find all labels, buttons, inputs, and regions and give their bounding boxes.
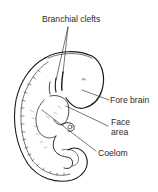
fore-brain-leader xyxy=(82,90,109,100)
label-fore-brain: Fore brain xyxy=(110,95,149,105)
heart-bulge xyxy=(36,100,56,138)
head-contour xyxy=(45,52,104,109)
embryo-diagram: Branchial clefts Fore brain Face area Co… xyxy=(0,0,158,192)
limb-bud-ring xyxy=(68,125,72,129)
tail-inner xyxy=(62,149,79,166)
somite-ticks xyxy=(21,70,64,175)
optic-mark xyxy=(82,79,85,81)
face-area-leader xyxy=(66,106,108,126)
label-branchial-clefts: Branchial clefts xyxy=(42,14,100,24)
label-face-area-line2: area xyxy=(111,127,128,137)
embryo-back-contour xyxy=(15,58,88,181)
face-bulge xyxy=(50,95,69,124)
branchial-clefts-leader-2 xyxy=(63,27,68,73)
tail-curl xyxy=(53,136,72,169)
label-coelom: Coelom xyxy=(98,148,128,158)
branchial-arch-1 xyxy=(62,72,63,90)
branchial-arch-3 xyxy=(49,82,50,94)
label-face-area-line1: Face xyxy=(111,117,130,127)
